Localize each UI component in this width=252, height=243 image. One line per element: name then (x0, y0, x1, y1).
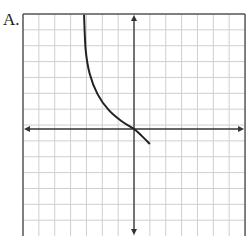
arrow-up-icon (131, 15, 137, 21)
coordinate-graph (0, 0, 252, 243)
arrow-down-icon (131, 229, 137, 235)
arrow-left-icon (24, 126, 30, 132)
arrow-right-icon (238, 126, 244, 132)
